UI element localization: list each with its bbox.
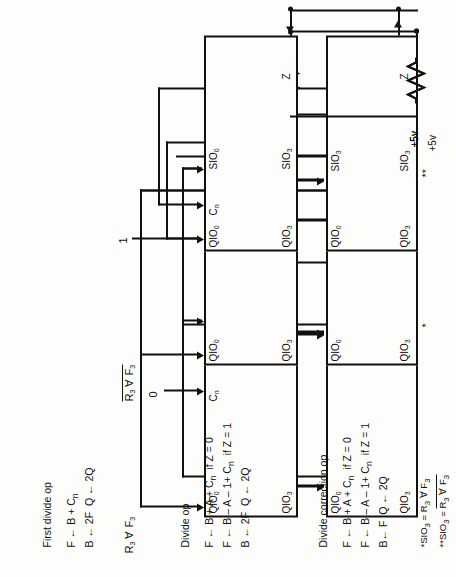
- wire-z-bus-col3: [290, 9, 418, 11]
- supply-col3-wire-in: [416, 103, 418, 125]
- diagram-sheet: R3 ∀ F3 0 QIO0 Cn SIO0 Z QIO3: [0, 0, 456, 577]
- supply-col3: +5v: [0, 0, 456, 577]
- wire-z-bus-full-col2: [290, 115, 418, 117]
- supply-col3-resistor: [404, 57, 428, 103]
- supply-col3-label: +5v: [410, 131, 420, 147]
- supply-col3-junction-dot: [414, 28, 419, 33]
